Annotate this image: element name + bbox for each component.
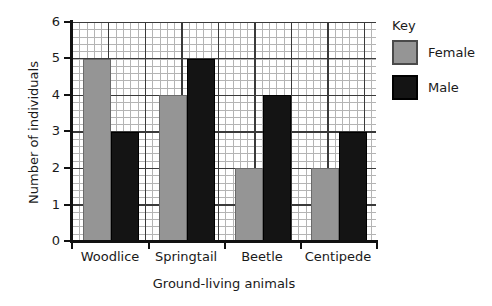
x-tick-4	[376, 241, 378, 249]
y-tick-2	[64, 167, 73, 169]
x-tick-label-beetle: Beetle	[224, 250, 300, 264]
y-tick-label-2: 2	[42, 161, 60, 174]
x-tick-label-springtail: Springtail	[148, 250, 224, 264]
y-tick-3	[64, 130, 73, 132]
female-swatch-icon	[392, 40, 418, 65]
bar-springtail-male	[187, 59, 215, 242]
y-tick-label-1: 1	[42, 198, 60, 211]
y-axis-title: Number of individuals	[26, 23, 41, 243]
x-axis-title: Ground-living animals	[72, 276, 376, 291]
bar-beetle-female	[235, 168, 263, 241]
y-tick-label-0: 0	[42, 234, 60, 247]
y-tick-label-3: 3	[42, 124, 60, 137]
x-tick-3	[300, 241, 302, 249]
y-tick-6	[64, 21, 73, 23]
legend-item-female: Female	[392, 40, 492, 65]
legend-title: Key	[392, 18, 492, 33]
y-tick-1	[64, 204, 73, 206]
male-swatch-icon	[392, 75, 418, 100]
x-tick-label-woodlice: Woodlice	[72, 250, 148, 264]
bar-springtail-female	[159, 95, 187, 241]
bar-woodlice-male	[111, 132, 139, 242]
legend: Key Female Male	[392, 18, 492, 110]
y-tick-label-5: 5	[42, 51, 60, 64]
bar-woodlice-female	[83, 59, 111, 242]
y-tick-label-4: 4	[42, 88, 60, 101]
x-tick-1	[148, 241, 150, 249]
legend-item-male: Male	[392, 75, 492, 100]
x-tick-label-centipede: Centipede	[300, 250, 376, 264]
bar-chart: 6 5 4 3 2 1 0 Woodlice Springtail Beetle…	[0, 0, 492, 306]
bars-layer	[72, 22, 376, 241]
y-tick-4	[64, 94, 73, 96]
bar-centipede-male	[339, 132, 367, 242]
bar-beetle-male	[263, 95, 291, 241]
y-tick-label-6: 6	[42, 15, 60, 28]
legend-label-female: Female	[428, 46, 475, 60]
y-tick-5	[64, 57, 73, 59]
x-tick-2	[224, 241, 226, 249]
legend-label-male: Male	[428, 81, 459, 95]
x-tick-0	[71, 241, 73, 249]
bar-centipede-female	[311, 168, 339, 241]
